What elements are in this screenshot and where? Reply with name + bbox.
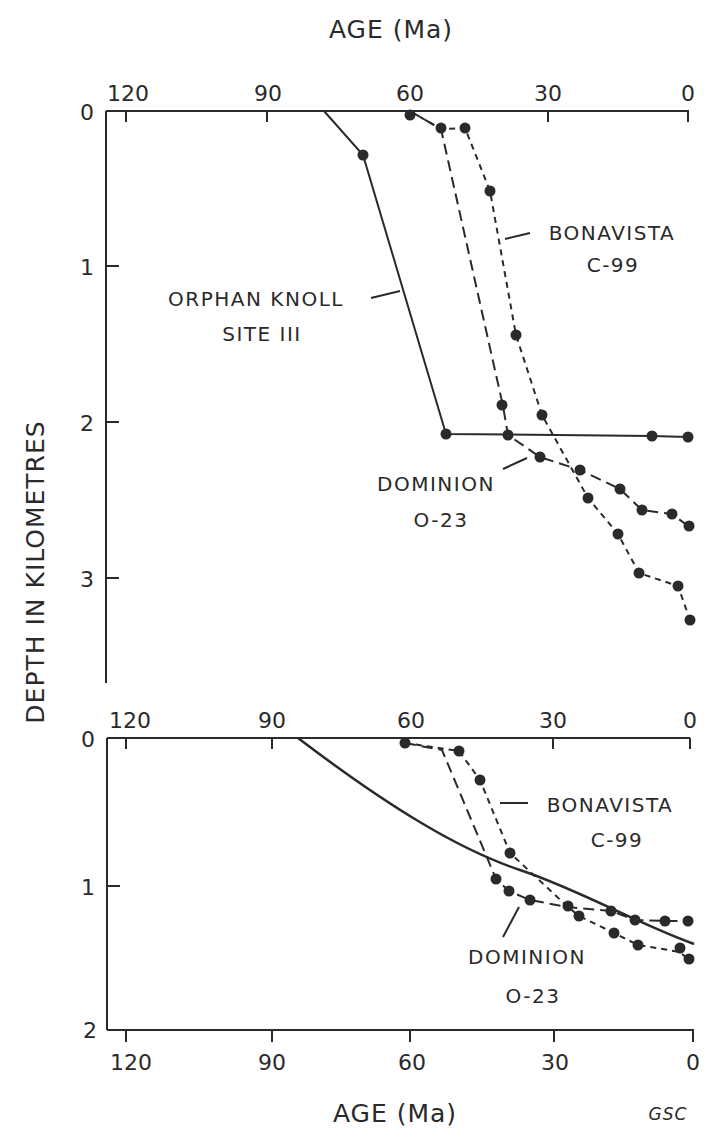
top-y-tick-2: 2 bbox=[80, 411, 94, 436]
credit-label: GSC bbox=[649, 1104, 688, 1124]
bottom-x-tick-30: 30 bbox=[541, 1050, 569, 1075]
y-axis-title: DEPTH IN KILOMETRES bbox=[21, 420, 50, 723]
bottom-top-x-tick-60: 60 bbox=[397, 708, 425, 733]
label-bonavista-top: BONAVISTA bbox=[549, 221, 676, 245]
label-dominion-code-top: O-23 bbox=[414, 508, 469, 532]
top-x-tick-60: 60 bbox=[396, 81, 424, 106]
bottom-x-tick-60: 60 bbox=[398, 1050, 426, 1075]
top-panel: 120 90 60 30 0 0 1 2 3 bbox=[80, 81, 696, 683]
bottom-top-x-tick-90: 90 bbox=[258, 708, 286, 733]
dominion-line-bottom bbox=[405, 743, 688, 921]
bottom-top-x-tick-120: 120 bbox=[109, 708, 151, 733]
top-x-tick-0: 0 bbox=[681, 81, 695, 106]
label-dominion-top: DOMINION bbox=[377, 472, 495, 496]
label-bonavista-code-bottom: C-99 bbox=[591, 828, 644, 852]
bottom-y-tick-2: 2 bbox=[83, 1018, 97, 1043]
label-orphan-site: SITE III bbox=[222, 322, 302, 346]
bottom-x-tick-90: 90 bbox=[258, 1050, 286, 1075]
dominion-line-top bbox=[410, 111, 688, 526]
top-x-tick-120: 120 bbox=[107, 81, 149, 106]
top-y-tick-3: 3 bbox=[80, 567, 94, 592]
bottom-panel: 120 90 60 30 0 120 90 60 30 0 0 1 2 bbox=[81, 708, 700, 1075]
bottom-x-tick-120: 120 bbox=[110, 1050, 152, 1075]
subsidence-figure: AGE (Ma) AGE (Ma) DEPTH IN KILOMETRES GS… bbox=[0, 0, 720, 1148]
top-x-tick-30: 30 bbox=[534, 81, 562, 106]
label-dominion-bottom: DOMINION bbox=[468, 945, 586, 969]
bottom-x-tick-0: 0 bbox=[686, 1050, 700, 1075]
bonavista-line-top bbox=[410, 111, 690, 620]
top-x-tick-90: 90 bbox=[254, 81, 282, 106]
bottom-top-x-tick-0: 0 bbox=[683, 708, 697, 733]
label-orphan-knoll: ORPHAN KNOLL bbox=[168, 287, 344, 311]
bottom-y-tick-1: 1 bbox=[81, 875, 95, 900]
label-dominion-code-bottom: O-23 bbox=[506, 984, 561, 1008]
label-bonavista-bottom: BONAVISTA bbox=[547, 793, 674, 817]
top-x-axis-title: AGE (Ma) bbox=[329, 15, 453, 44]
bottom-x-axis-title: AGE (Ma) bbox=[333, 1099, 457, 1128]
top-y-tick-1: 1 bbox=[80, 255, 94, 280]
label-bonavista-code-top: C-99 bbox=[587, 253, 640, 277]
top-y-tick-0: 0 bbox=[80, 100, 94, 125]
bottom-y-tick-0: 0 bbox=[81, 727, 95, 752]
bonavista-line-bottom bbox=[405, 743, 689, 960]
bottom-top-x-tick-30: 30 bbox=[539, 708, 567, 733]
